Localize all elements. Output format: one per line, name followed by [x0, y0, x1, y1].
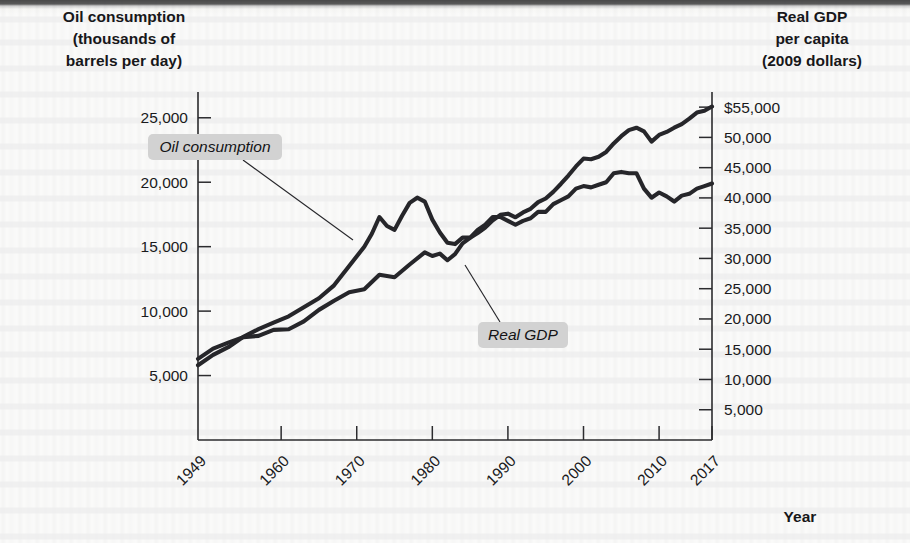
right-axis-title: Real GDP per capita (2009 dollars)	[762, 8, 862, 69]
left-axis-tick-label: 25,000	[141, 109, 189, 126]
year-axis-tick-label: 1960	[256, 452, 293, 489]
left-axis-title: Oil consumption (thousands of barrels pe…	[63, 8, 185, 69]
left-axis-tick-label: 15,000	[141, 238, 189, 255]
year-axis: 19491960197019801990200020102017	[173, 426, 723, 489]
right-axis-tick-label: $55,000	[724, 99, 780, 116]
left-axis-tick-label: 10,000	[141, 303, 189, 320]
right-axis-tick-label: 5,000	[724, 401, 763, 418]
right-axis-tick-label: 50,000	[724, 129, 772, 146]
left-axis-title-line-1: Oil consumption	[63, 8, 185, 25]
annotation-layer: Oil consumptionReal GDP	[148, 134, 568, 348]
right-axis-tick-label: 45,000	[724, 159, 772, 176]
oil-consumption-callout-leader-line	[243, 160, 353, 240]
year-axis-tick-label: 2000	[558, 452, 595, 489]
year-axis-tick-label: 1949	[173, 452, 209, 488]
right-axis-tick-label: 40,000	[724, 189, 772, 206]
right-axis-title-line-3: (2009 dollars)	[762, 52, 862, 69]
real-gdp-callout-leader-line	[465, 265, 500, 322]
right-axis-tick-label: 15,000	[724, 341, 772, 358]
right-value-axis: $55,00050,00045,00040,00035,00030,00025,…	[699, 92, 780, 440]
real-gdp-callout-label: Real GDP	[488, 326, 558, 343]
year-axis-tick-label: 1990	[483, 452, 520, 489]
right-axis-tick-label: 20,000	[724, 310, 772, 327]
year-axis-tick-label: 2010	[634, 452, 671, 489]
x-axis-name: Year	[784, 508, 817, 525]
left-axis-tick-label: 20,000	[141, 174, 189, 191]
oil-consumption-callout-label: Oil consumption	[159, 138, 270, 155]
right-axis-tick-label: 30,000	[724, 250, 772, 267]
year-axis-tick-label: 1980	[407, 452, 444, 489]
series-line-oil-consumption	[198, 172, 712, 365]
left-axis-title-line-2: (thousands of	[73, 30, 176, 47]
right-axis-tick-label: 10,000	[724, 371, 772, 388]
figure-page: Oil consumption (thousands of barrels pe…	[0, 0, 910, 543]
year-axis-tick-label: 1970	[331, 452, 368, 489]
right-axis-title-line-2: per capita	[775, 30, 849, 47]
left-axis-title-line-3: barrels per day)	[66, 52, 182, 69]
dual-axis-line-chart: Oil consumption (thousands of barrels pe…	[0, 0, 910, 543]
right-axis-tick-label: 35,000	[724, 220, 772, 237]
year-axis-tick-label: 2017	[687, 452, 723, 488]
right-axis-tick-label: 25,000	[724, 280, 772, 297]
right-axis-title-line-1: Real GDP	[777, 8, 848, 25]
left-axis-tick-label: 5,000	[149, 367, 188, 384]
